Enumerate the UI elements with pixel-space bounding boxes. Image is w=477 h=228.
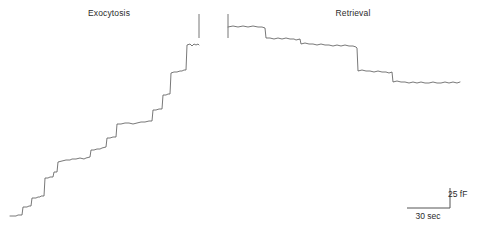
scale-bar-horizontal-label: 30 sec xyxy=(406,211,450,221)
retrieval-trace xyxy=(228,26,460,83)
panel-title-exocytosis: Exocytosis xyxy=(0,8,218,18)
traces-group xyxy=(10,26,460,216)
scale-bar xyxy=(407,188,450,208)
scale-bar-icon xyxy=(407,188,450,208)
capacitance-figure: Exocytosis Retrieval 25 fF 30 sec xyxy=(0,0,477,228)
scale-bar-vertical-label: 25 fF xyxy=(448,189,467,199)
capacitance-plot xyxy=(0,0,477,228)
panel-title-retrieval: Retrieval xyxy=(258,8,448,18)
exocytosis-trace xyxy=(10,44,199,216)
